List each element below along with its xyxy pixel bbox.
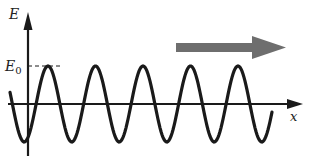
propagation-arrow-icon [252, 36, 286, 59]
e-axis-label: E [9, 6, 19, 22]
e-axis-arrowhead-icon [24, 12, 33, 30]
amplitude-label-subscript: 0 [15, 65, 21, 76]
propagation-arrow-shaft [176, 43, 254, 52]
amplitude-label-base: E [5, 58, 15, 74]
x-axis-arrowhead-icon [287, 99, 303, 109]
x-axis-label: x [290, 109, 297, 124]
amplitude-label: E0 [5, 58, 22, 74]
wave-diagram [0, 0, 315, 167]
